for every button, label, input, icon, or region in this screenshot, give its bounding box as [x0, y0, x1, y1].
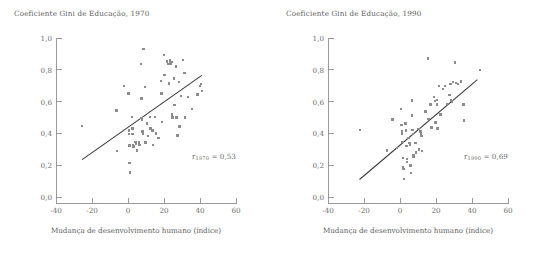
chart-panel-1990: Coeficiente Gini de Educação, 1990 0,00,… [272, 0, 544, 253]
y-tick-label: 0,2 [41, 161, 52, 170]
y-tick-label: 0,4 [41, 129, 52, 138]
scatter-point [436, 103, 438, 105]
scatter-point [149, 116, 151, 118]
annot-subscript: 1990 [467, 155, 481, 161]
scatter-point [451, 100, 453, 102]
scatter-point [196, 93, 198, 95]
scatter-point [400, 108, 402, 110]
x-axis-line-1970 [56, 203, 237, 204]
scatter-point [142, 48, 144, 50]
x-tick-mark [236, 198, 237, 203]
scatter-point [146, 122, 148, 124]
scatter-point [434, 121, 436, 123]
scatter-point [154, 116, 156, 118]
scatter-point [173, 77, 175, 79]
scatter-point [183, 72, 185, 74]
y-tick-label: 0,2 [313, 161, 324, 170]
scatter-point [448, 94, 450, 96]
y-tick-label: 0,6 [41, 97, 52, 106]
scatter-point [160, 92, 162, 94]
scatter-point [128, 129, 130, 131]
scatter-point [396, 147, 398, 149]
trendline-1990 [328, 38, 508, 197]
scatter-point [163, 54, 165, 56]
scatter-point [161, 121, 163, 123]
scatter-point [141, 118, 143, 120]
scatter-point [409, 144, 411, 146]
scatter-point [136, 149, 138, 151]
x-tick-label: 60 [231, 206, 240, 215]
scatter-point [144, 86, 146, 88]
correlation-annotation-1990: r1990 = 0,69 [464, 152, 508, 161]
scatter-point [424, 110, 426, 112]
scatter-point [138, 144, 140, 146]
correlation-annotation-1970: r1970 = 0,53 [192, 152, 236, 161]
scatter-point [429, 103, 431, 105]
scatter-point [402, 168, 404, 170]
x-tick-label: 20 [431, 206, 440, 215]
scatter-point [391, 118, 393, 120]
plot-area-1970 [56, 38, 236, 197]
y-tick-label: 0,8 [313, 65, 324, 74]
y-tick-label: 1,0 [41, 34, 52, 43]
scatter-point [173, 104, 175, 106]
panel-title-1970: Coeficiente Gini de Educação, 1970 [14, 9, 149, 18]
x-tick-mark [200, 198, 201, 203]
scatter-point [404, 122, 406, 124]
scatter-point [439, 113, 441, 115]
plot-area-1990 [328, 38, 508, 197]
chart-panel-1970: Coeficiente Gini de Educação, 1970 0,00,… [0, 0, 272, 253]
scatter-point [128, 144, 130, 146]
scatter-point [129, 171, 131, 173]
scatter-point [420, 135, 422, 137]
y-tick-label: 0,6 [313, 97, 324, 106]
scatter-point [411, 99, 413, 101]
scatter-point [359, 129, 361, 131]
scatter-point [460, 80, 462, 82]
scatter-point [200, 83, 202, 85]
scatter-point [182, 59, 184, 61]
annot-equals: = [484, 152, 490, 161]
x-tick-mark [472, 198, 473, 203]
scatter-point [442, 88, 444, 90]
scatter-point [175, 116, 177, 118]
scatter-point [160, 80, 162, 82]
scatter-point [140, 97, 142, 99]
scatter-point [401, 141, 403, 143]
x-tick-label: 0 [126, 206, 131, 215]
scatter-point [127, 92, 129, 94]
x-tick-mark [508, 198, 509, 203]
scatter-point [151, 129, 153, 131]
scatter-point [406, 161, 408, 163]
scatter-point [184, 116, 186, 118]
y-tick-label: 0,8 [41, 65, 52, 74]
scatter-point [407, 137, 409, 139]
scatter-point [142, 133, 144, 135]
scatter-point [454, 61, 456, 63]
scatter-point [157, 137, 159, 139]
scatter-point [462, 103, 464, 105]
x-tick-label: -40 [50, 206, 62, 215]
scatter-point [155, 132, 157, 134]
scatter-point [410, 172, 412, 174]
scatter-point [411, 114, 413, 116]
x-axis-title-1990: Mudança de desenvolvimento humano (índic… [272, 226, 544, 235]
x-tick-label: 20 [159, 206, 168, 215]
scatter-point [171, 116, 173, 118]
scatter-point [400, 124, 402, 126]
x-tick-mark [328, 198, 329, 203]
scatter-point [147, 135, 149, 137]
scatter-point [402, 157, 404, 159]
scatter-point [438, 85, 440, 87]
x-tick-mark [128, 198, 129, 203]
scatter-point [446, 103, 448, 105]
scatter-point [131, 133, 133, 135]
scatter-point [412, 133, 414, 135]
scatter-point [170, 61, 172, 63]
y-tick-label: 0,4 [313, 129, 324, 138]
annot-subscript: 1970 [195, 155, 209, 161]
x-tick-label: 60 [503, 206, 512, 215]
scatter-point [427, 57, 429, 59]
figure-container: Coeficiente Gini de Educação, 1970 0,00,… [0, 0, 544, 253]
scatter-point [178, 125, 180, 127]
